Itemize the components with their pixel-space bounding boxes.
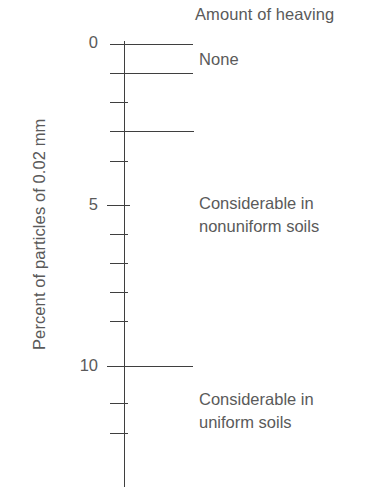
category-nonuniform-line-1: Considerable in [199,192,319,215]
axis-graphic [0,0,377,490]
heaving-classification-figure: Amount of heaving Percent of particles o… [0,0,377,490]
tick-label-10: 10 [48,356,98,375]
category-label-uniform: Considerable in uniform soils [199,388,314,434]
category-uniform-line-2: uniform soils [199,411,314,434]
tick-label-0: 0 [58,33,98,52]
category-nonuniform-line-2: nonuniform soils [199,215,319,238]
category-label-none: None [199,48,239,70]
tick-label-5: 5 [58,195,98,214]
category-label-nonuniform: Considerable in nonuniform soils [199,192,319,238]
category-uniform-line-1: Considerable in [199,388,314,411]
